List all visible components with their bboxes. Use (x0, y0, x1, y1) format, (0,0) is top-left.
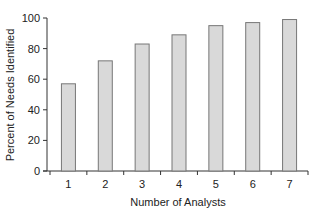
x-tick-label: 1 (65, 178, 71, 190)
y-tick-label: 20 (28, 134, 40, 146)
bar-6 (246, 23, 260, 171)
bar-5 (209, 26, 223, 171)
x-axis-title: Number of Analysts (130, 196, 226, 208)
bar-2 (98, 61, 112, 171)
bar-3 (135, 44, 149, 171)
x-tick-label: 7 (287, 178, 293, 190)
y-tick-label: 100 (22, 12, 40, 24)
bar-1 (61, 84, 75, 171)
x-axis: 1234567 (43, 171, 308, 190)
bar-4 (172, 35, 186, 171)
y-tick-label: 60 (28, 73, 40, 85)
y-tick-label: 40 (28, 104, 40, 116)
y-axis-title: Percent of Needs Identified (4, 29, 16, 162)
bar-7 (283, 20, 297, 171)
bars (61, 20, 296, 171)
x-tick-label: 6 (250, 178, 256, 190)
y-tick-label: 0 (34, 165, 40, 177)
y-tick-label: 80 (28, 43, 40, 55)
x-tick-label: 3 (139, 178, 145, 190)
x-tick-label: 4 (176, 178, 182, 190)
x-tick-label: 2 (102, 178, 108, 190)
bar-chart: 020406080100 1234567 Number of Analysts … (0, 0, 321, 217)
x-tick-label: 5 (213, 178, 219, 190)
y-axis: 020406080100 (22, 12, 47, 177)
